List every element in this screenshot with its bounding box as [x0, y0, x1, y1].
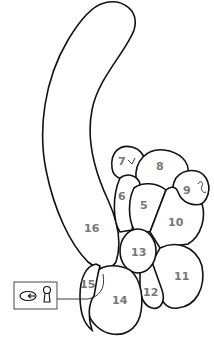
- label-11: 11: [174, 270, 189, 283]
- label-12: 12: [143, 286, 158, 299]
- label-16: 16: [84, 222, 100, 235]
- label-14: 14: [112, 294, 128, 307]
- label-9: 9: [183, 184, 191, 197]
- label-6: 6: [118, 190, 126, 203]
- label-15: 15: [80, 278, 95, 291]
- label-13: 13: [131, 246, 146, 259]
- label-5: 5: [140, 199, 148, 212]
- label-10: 10: [168, 216, 184, 229]
- balloon-diagram: 7 8 9 6 5 10 16 13 11 12 15 14: [0, 0, 214, 344]
- label-7: 7: [118, 155, 126, 168]
- label-8: 8: [156, 160, 164, 173]
